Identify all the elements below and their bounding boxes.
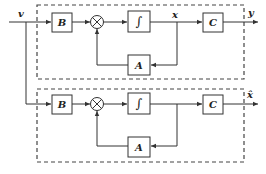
system-plant: B ∫ x C y A — [37, 5, 258, 79]
summing-junction-bottom — [91, 98, 104, 111]
feedback-line-to-a-bottom — [151, 104, 177, 146]
block-b-bottom-label: B — [57, 99, 66, 110]
integrator-top-symbol: ∫ — [136, 14, 143, 29]
input-label: v — [18, 8, 24, 19]
block-a-top-label: A — [134, 60, 143, 71]
integrator-bottom-symbol: ∫ — [136, 96, 143, 111]
feedback-line-a-to-sum-top — [97, 29, 128, 65]
output-label-xhat: x̂ — [246, 89, 254, 100]
block-a-bottom-label: A — [134, 142, 143, 153]
block-c-top-label: C — [209, 17, 217, 28]
input-branch-bottom — [26, 22, 51, 104]
feedback-line-a-to-sum-bottom — [97, 111, 128, 146]
block-diagram: v B ∫ x C y A — [0, 0, 266, 174]
block-c-bottom-label: C — [209, 99, 217, 110]
summing-junction-top — [91, 16, 104, 29]
block-b-top-label: B — [57, 17, 66, 28]
output-label-y: y — [247, 7, 255, 18]
system-observer: B ∫ C x̂ A — [37, 89, 258, 162]
feedback-line-to-a-top — [151, 22, 177, 65]
state-label-x: x — [171, 9, 179, 20]
